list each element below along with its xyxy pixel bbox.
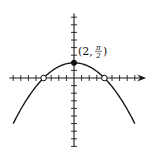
annotation-close: ) xyxy=(103,45,107,58)
right-intercept-point xyxy=(102,75,108,81)
graph: (2, π 2 ) xyxy=(0,0,151,147)
annotation-numerator: π xyxy=(95,44,101,52)
vertex-annotation: (2, π 2 ) xyxy=(78,44,107,61)
annotation-denominator: 2 xyxy=(95,52,101,60)
left-intercept-point xyxy=(41,75,47,81)
axes xyxy=(9,13,146,146)
vertex-point xyxy=(71,60,76,65)
annotation-open: (2, xyxy=(78,45,93,58)
